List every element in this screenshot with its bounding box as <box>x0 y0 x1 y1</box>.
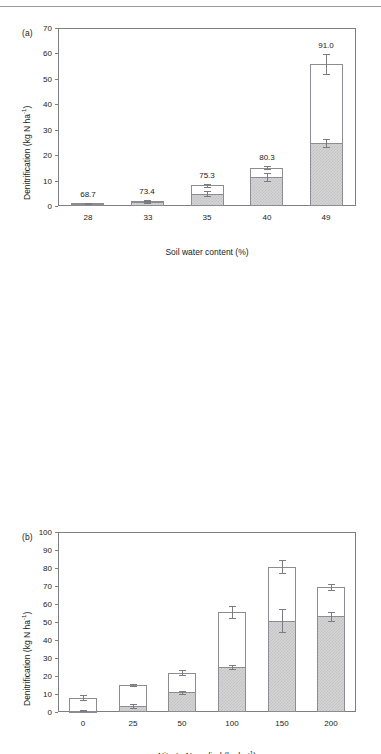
y-axis-tick-label: 20 <box>26 151 52 160</box>
bar-value-label-49: 91.0 <box>318 41 334 50</box>
y-axis-tick <box>55 53 58 54</box>
error-bar-lower-33-cap-top <box>144 201 151 202</box>
x-axis-tick-label: 33 <box>118 213 178 222</box>
error-bar-lower-49-cap-top <box>323 139 330 140</box>
error-bar-lower-35-cap-top <box>204 191 211 192</box>
y-axis-tick <box>55 28 58 29</box>
error-bar-lower-40-cap-top <box>264 173 271 174</box>
error-bar-lower-40-cap-bottom <box>264 181 271 182</box>
y-axis-tick-label: 50 <box>26 75 52 84</box>
bar-value-label-28: 68.7 <box>80 190 96 199</box>
x-axis-tick-label: 35 <box>177 213 237 222</box>
error-bar-lower-28-cap-bottom <box>85 204 92 205</box>
bar-value-label-33: 73.4 <box>139 187 155 196</box>
y-axis-tick-label: 0 <box>26 202 52 211</box>
figure-denitrification: (a) Denitrification (kg N ha-1) 01020304… <box>0 10 381 754</box>
y-axis-tick <box>55 104 58 105</box>
x-axis-tick-label: 28 <box>58 213 118 222</box>
y-axis-tick <box>55 79 58 80</box>
y-axis-tick-label: 60 <box>26 49 52 58</box>
panel-c: (c) Denitrification (kg N ha-1) 01020304… <box>0 512 381 754</box>
bar-lower-49 <box>310 143 343 206</box>
error-bar-total-40-cap-bottom <box>264 169 271 170</box>
panel-a: (a) Denitrification (kg N ha-1) 01020304… <box>0 10 381 260</box>
error-bar-total-35-cap-top <box>204 184 211 185</box>
error-bar-total-49-cap-top <box>323 54 330 55</box>
error-bar-total-49-cap-bottom <box>323 74 330 75</box>
x-axis-tick-label: 40 <box>237 213 297 222</box>
y-axis-tick-label: 30 <box>26 126 52 135</box>
y-axis-tick-label: 10 <box>26 177 52 186</box>
bar-value-label-40: 80.3 <box>259 153 275 162</box>
y-axis-tick <box>55 130 58 131</box>
error-bar-lower-49 <box>326 139 327 147</box>
error-bar-lower-35-cap-bottom <box>204 196 211 197</box>
error-bar-total-40-cap-top <box>264 166 271 167</box>
error-bar-total-49 <box>326 54 327 74</box>
error-bar-total-35-cap-bottom <box>204 187 211 188</box>
y-axis-tick-label: 70 <box>26 24 52 33</box>
y-axis-tick-label: 40 <box>26 100 52 109</box>
page-top-rule <box>0 6 381 7</box>
y-axis-tick <box>55 206 58 207</box>
error-bar-lower-33-cap-bottom <box>144 203 151 204</box>
error-bar-lower-40 <box>267 173 268 181</box>
y-axis-tick <box>55 181 58 182</box>
bar-value-label-35: 75.3 <box>199 171 215 180</box>
panel-a-x-axis-label: Soil water content (%) <box>58 247 356 257</box>
panel-b: (b) Denitrification (kg N ha-1) 01020304… <box>0 260 381 512</box>
error-bar-lower-49-cap-bottom <box>323 147 330 148</box>
y-axis-tick <box>55 155 58 156</box>
x-axis-tick-label: 49 <box>296 213 356 222</box>
superscript: -1 <box>20 109 27 115</box>
